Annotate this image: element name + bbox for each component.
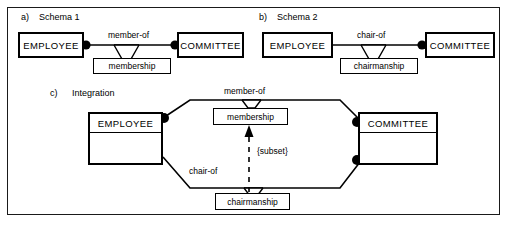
edge-label-b-chair-of: chair-of — [355, 30, 387, 40]
relationship-a-membership-label: membership — [109, 61, 156, 71]
entity-c-committee[interactable]: COMMITTEE — [358, 112, 438, 165]
relationship-c-chairmanship-label: chairmanship — [227, 197, 278, 207]
entity-a-employee[interactable]: EMPLOYEE — [18, 32, 84, 58]
entity-c-employee-label: EMPLOYEE — [98, 118, 153, 129]
funnel-a-membership — [114, 45, 139, 59]
part-a-title: Schema 1 — [39, 12, 80, 22]
funnel-c-membership — [242, 100, 261, 108]
entity-b-committee-label: COMMITTEE — [430, 40, 491, 51]
entity-a-employee-label: EMPLOYEE — [23, 40, 78, 51]
edge-label-a-member-of: member-of — [106, 30, 151, 40]
entity-a-committee[interactable]: COMMITTEE — [177, 32, 244, 58]
relationship-b-chairmanship-label: chairmanship — [354, 61, 405, 71]
edge-label-c-chair-of: chair-of — [187, 166, 219, 176]
entity-a-committee-label: COMMITTEE — [180, 40, 241, 51]
edge-label-c-member-of: member-of — [222, 86, 267, 96]
relationship-a-membership[interactable]: membership — [93, 58, 171, 74]
subset-arrowhead-icon — [245, 125, 254, 137]
entity-b-employee-label: EMPLOYEE — [270, 40, 325, 51]
part-c-tag: c) — [50, 88, 58, 98]
figure-canvas: a) Schema 1 EMPLOYEE COMMITTEE member-of… — [0, 0, 508, 225]
constraint-label-subset: {subset} — [257, 146, 288, 156]
relationship-b-chairmanship[interactable]: chairmanship — [340, 58, 418, 74]
relationship-c-membership-label: membership — [227, 112, 274, 122]
part-b-tag: b) — [259, 12, 267, 22]
entity-b-employee[interactable]: EMPLOYEE — [262, 32, 333, 58]
part-a-tag: a) — [21, 12, 29, 22]
entity-c-committee-label: COMMITTEE — [368, 118, 429, 129]
part-b-title: Schema 2 — [277, 12, 318, 22]
entity-c-employee[interactable]: EMPLOYEE — [88, 112, 163, 165]
entity-c-employee-header: EMPLOYEE — [90, 114, 161, 133]
part-c-title: Integration — [72, 88, 115, 98]
relationship-c-chairmanship[interactable]: chairmanship — [215, 193, 290, 210]
entity-c-committee-header: COMMITTEE — [360, 114, 436, 133]
entity-b-committee[interactable]: COMMITTEE — [425, 32, 495, 58]
relationship-c-membership[interactable]: membership — [213, 108, 288, 125]
funnel-b-chairmanship — [361, 45, 386, 59]
